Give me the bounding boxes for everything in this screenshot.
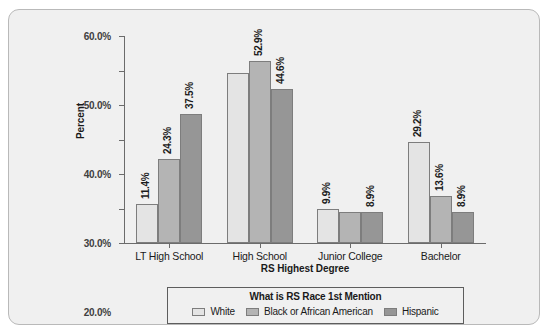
- bar-value-label: 24.3%: [162, 127, 173, 154]
- x-tick: [441, 243, 442, 248]
- legend-label: Hispanic: [402, 306, 439, 317]
- y-tick-label: 40.0%: [84, 169, 111, 180]
- y-tick: 20.0%: [119, 174, 124, 175]
- y-axis-line: [124, 36, 125, 243]
- y-tick-label: 60.0%: [84, 31, 111, 42]
- y-tick: 0.0%: [119, 243, 124, 244]
- x-axis-line: [124, 243, 486, 244]
- chart-screenshot: Percent 0.0%10.0%20.0%30.0%40.0%50.0%60.…: [0, 0, 554, 333]
- bar-value-label: 13.6%: [434, 164, 445, 191]
- x-tick: [169, 243, 170, 248]
- y-tick: 10.0%: [119, 209, 124, 210]
- bar[interactable]: 29.2%: [408, 142, 430, 243]
- y-tick-label: 50.0%: [84, 100, 111, 111]
- bar-value-label: 8.9%: [456, 186, 467, 208]
- legend-item[interactable]: White: [192, 306, 235, 317]
- bar[interactable]: 44.6%: [271, 89, 293, 243]
- legend-title: What is RS Race 1st Mention: [168, 291, 463, 302]
- bar-value-label: 44.6%: [275, 57, 286, 84]
- legend-items: WhiteBlack or African AmericanHispanic: [168, 306, 463, 317]
- x-category-label: Junior College: [318, 250, 382, 262]
- bar[interactable]: 24.3%: [158, 159, 180, 243]
- bar-value-label: 9.9%: [321, 182, 332, 204]
- bar[interactable]: 52.9%: [249, 61, 271, 244]
- bar-value-label: 37.5%: [184, 82, 195, 109]
- chart-panel-frame: Percent 0.0%10.0%20.0%30.0%40.0%50.0%60.…: [8, 9, 540, 325]
- legend-label: White: [210, 306, 235, 317]
- y-tick: 40.0%: [119, 105, 124, 106]
- bar[interactable]: 37.5%: [180, 114, 202, 243]
- bar[interactable]: 8.9%: [452, 212, 474, 243]
- bar-value-label: 8.9%: [365, 186, 376, 208]
- x-category-label: LT High School: [135, 250, 203, 262]
- bar[interactable]: [339, 212, 361, 243]
- legend-swatch: [192, 308, 205, 316]
- plot-area: 0.0%10.0%20.0%30.0%40.0%50.0%60.0% LT Hi…: [124, 36, 486, 243]
- bar[interactable]: 9.9%: [317, 209, 339, 243]
- bar[interactable]: [227, 73, 249, 243]
- legend-item[interactable]: Hispanic: [384, 306, 439, 317]
- legend-item[interactable]: Black or African American: [246, 306, 373, 317]
- bar-value-label: 52.9%: [253, 29, 264, 56]
- x-axis-title: RS Highest Degree: [124, 263, 486, 274]
- legend-swatch: [246, 308, 259, 316]
- y-tick-label: 30.0%: [84, 238, 111, 249]
- x-tick: [260, 243, 261, 248]
- y-tick: 50.0%: [119, 71, 124, 72]
- bar[interactable]: 8.9%: [361, 212, 383, 243]
- bar[interactable]: 11.4%: [136, 204, 158, 243]
- bar-value-label: 29.2%: [412, 110, 423, 137]
- bar-value-label: 11.4%: [140, 172, 151, 198]
- y-tick: 60.0%: [119, 36, 124, 37]
- legend: What is RS Race 1st Mention WhiteBlack o…: [167, 287, 464, 324]
- x-category-label: Bachelor: [421, 250, 461, 262]
- y-tick: 30.0%: [119, 140, 124, 141]
- legend-swatch: [384, 308, 397, 316]
- x-tick: [350, 243, 351, 248]
- legend-label: Black or African American: [264, 306, 373, 317]
- x-category-label: High School: [233, 250, 287, 262]
- y-tick-label: 20.0%: [84, 307, 111, 318]
- bar[interactable]: 13.6%: [430, 196, 452, 243]
